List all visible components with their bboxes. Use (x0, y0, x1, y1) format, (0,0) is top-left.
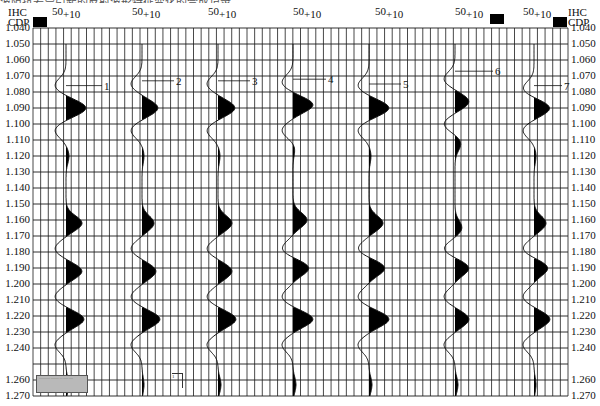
trace-label-7: 7 (564, 80, 570, 92)
trace-label-6: 6 (495, 65, 501, 77)
legend-box: ··········· ········ ··· ····· ···· (36, 375, 88, 393)
trace-label-5: 5 (403, 78, 409, 90)
trace-label-4: 4 (328, 73, 334, 85)
marker-box: 1 (172, 373, 183, 388)
trace-label-3: 3 (252, 75, 258, 87)
trace-label-1: 1 (104, 80, 110, 92)
trace-label-2: 2 (176, 75, 182, 87)
seismic-wiggle-plot: 1234567 (0, 0, 600, 406)
